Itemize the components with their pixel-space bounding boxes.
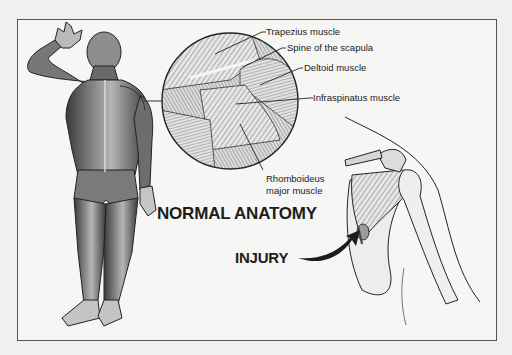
anatomy-illustration [0,0,512,355]
label-deltoid: Deltoid muscle [304,62,366,73]
label-trapezius: Trapezius muscle [266,26,340,37]
label-infraspinatus: Infraspinatus muscle [313,92,400,103]
label-rhomboideus-2: major muscle [266,185,323,196]
label-spine-of-scapula: Spine of the scapula [287,42,373,53]
injured-shoulder [345,117,480,325]
body-figure [28,22,156,326]
heading-normal-anatomy: NORMAL ANATOMY [157,204,317,224]
label-rhomboideus-1: Rhomboideus [266,173,325,184]
heading-injury: INJURY [235,249,288,266]
